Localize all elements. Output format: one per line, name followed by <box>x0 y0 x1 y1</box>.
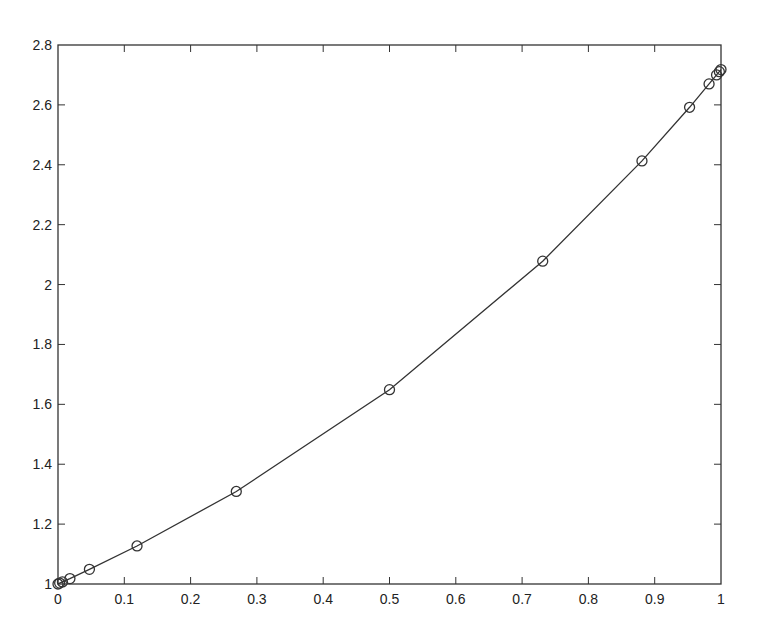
x-tick-label: 0.5 <box>380 591 400 607</box>
x-tick-label: 0.6 <box>446 591 466 607</box>
y-tick-label: 2.4 <box>33 157 53 173</box>
y-tick-label: 2.8 <box>33 37 53 53</box>
y-tick-label: 1.4 <box>33 456 53 472</box>
y-tick-label: 1.6 <box>33 396 53 412</box>
x-tick-label: 1 <box>717 591 725 607</box>
y-tick-label: 2.6 <box>33 97 53 113</box>
y-tick-label: 2.2 <box>33 217 53 233</box>
x-tick-label: 0.2 <box>181 591 201 607</box>
x-tick-label: 0.7 <box>512 591 532 607</box>
y-tick-label: 1 <box>44 576 52 592</box>
y-tick-label: 2 <box>44 277 52 293</box>
line-chart: 00.10.20.30.40.50.60.70.80.91 11.21.41.6… <box>0 0 757 641</box>
y-tick-label: 1.8 <box>33 336 53 352</box>
x-tick-label: 0 <box>54 591 62 607</box>
x-tick-label: 0.4 <box>313 591 333 607</box>
x-tick-label: 0.3 <box>247 591 267 607</box>
y-tick-label: 1.2 <box>33 516 53 532</box>
plot-frame <box>58 45 721 584</box>
y-axis: 11.21.41.61.822.22.42.62.8 <box>33 37 721 592</box>
series-line <box>58 70 721 584</box>
x-axis: 00.10.20.30.40.50.60.70.80.91 <box>54 45 725 607</box>
x-tick-label: 0.1 <box>115 591 135 607</box>
data-series <box>53 65 726 589</box>
x-tick-label: 0.9 <box>645 591 665 607</box>
x-tick-label: 0.8 <box>579 591 599 607</box>
